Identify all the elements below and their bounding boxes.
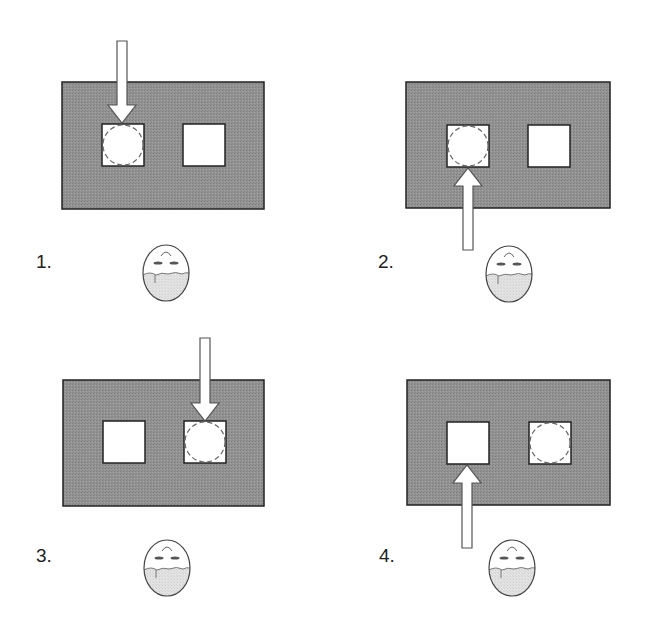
panel-number-label: 3. bbox=[36, 545, 52, 566]
left-window bbox=[447, 422, 489, 464]
panel-3: 3. bbox=[36, 338, 264, 598]
panel-1: 1. bbox=[36, 41, 264, 303]
left-window bbox=[103, 421, 145, 463]
face-icon bbox=[142, 540, 192, 598]
panel-4: 4. bbox=[379, 380, 610, 598]
arrow-up-icon bbox=[454, 168, 482, 250]
panel-number-label: 1. bbox=[36, 251, 52, 272]
arrow-up-icon bbox=[453, 465, 481, 548]
right-window bbox=[183, 124, 225, 166]
saccade-task-diagram: 1.2.3.4. bbox=[0, 0, 655, 624]
face-icon bbox=[141, 245, 191, 303]
gray-board bbox=[406, 82, 610, 208]
right-window bbox=[184, 421, 226, 463]
gray-board bbox=[62, 82, 264, 209]
gray-board bbox=[407, 380, 610, 505]
face-icon bbox=[487, 540, 537, 598]
panel-number-label: 4. bbox=[379, 545, 395, 566]
panel-2: 2. bbox=[378, 82, 610, 304]
right-window bbox=[529, 422, 571, 464]
gray-board bbox=[63, 380, 264, 506]
left-window bbox=[447, 125, 489, 167]
panel-number-label: 2. bbox=[378, 251, 394, 272]
left-window bbox=[102, 124, 144, 166]
right-window bbox=[528, 125, 570, 167]
face-icon bbox=[484, 246, 534, 304]
